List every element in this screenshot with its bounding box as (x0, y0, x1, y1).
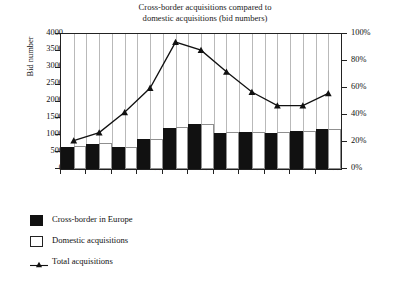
y-axis-right-tick-label: 40% (351, 109, 366, 118)
x-axis-tick-mark (213, 170, 214, 174)
y-axis-right-tick-label: 100% (351, 28, 371, 37)
x-axis-tick-mark (136, 170, 137, 174)
legend-label: Total acquisitions (52, 256, 113, 266)
legend-label: Cross-border in Europe (52, 214, 133, 224)
legend-label: Domestic acquisitions (52, 235, 128, 245)
line-marker (172, 39, 179, 45)
chart-title-line-1: Cross-border acquisitions compared to (0, 2, 410, 13)
line-marker (325, 90, 332, 96)
y-axis-right-tick-label: 60% (351, 82, 366, 91)
line-marker (147, 85, 154, 91)
x-axis-tick-mark (162, 170, 163, 174)
x-axis-tick-mark (111, 170, 112, 174)
total-acquisitions-line-series (61, 34, 341, 169)
total-acquisitions-line (74, 42, 329, 141)
chart-title-line-2: domestic acquisitions (bid numbers) (0, 13, 410, 24)
x-axis-tick-mark (289, 170, 290, 174)
y-axis-left-label: Bid number (26, 7, 35, 107)
x-axis-tick-mark (238, 170, 239, 174)
x-axis-tick-mark (85, 170, 86, 174)
y-axis-right-tick-label: 0% (351, 163, 362, 172)
y-axis-right-tick-label: 20% (351, 136, 366, 145)
x-axis-tick-mark (315, 170, 316, 174)
line-triangle-marker-icon (30, 257, 48, 268)
chart-title: Cross-border acquisitions compared to do… (0, 2, 410, 24)
x-axis-tick-mark (187, 170, 188, 174)
y-axis-right-tick-label: 80% (351, 55, 366, 64)
black-square-icon (30, 215, 43, 226)
plot-area (60, 33, 342, 170)
white-square-icon (30, 236, 43, 247)
x-axis-tick-mark (60, 170, 61, 174)
chart-figure: Cross-border acquisitions compared to do… (0, 0, 410, 288)
x-axis-tick-mark (264, 170, 265, 174)
